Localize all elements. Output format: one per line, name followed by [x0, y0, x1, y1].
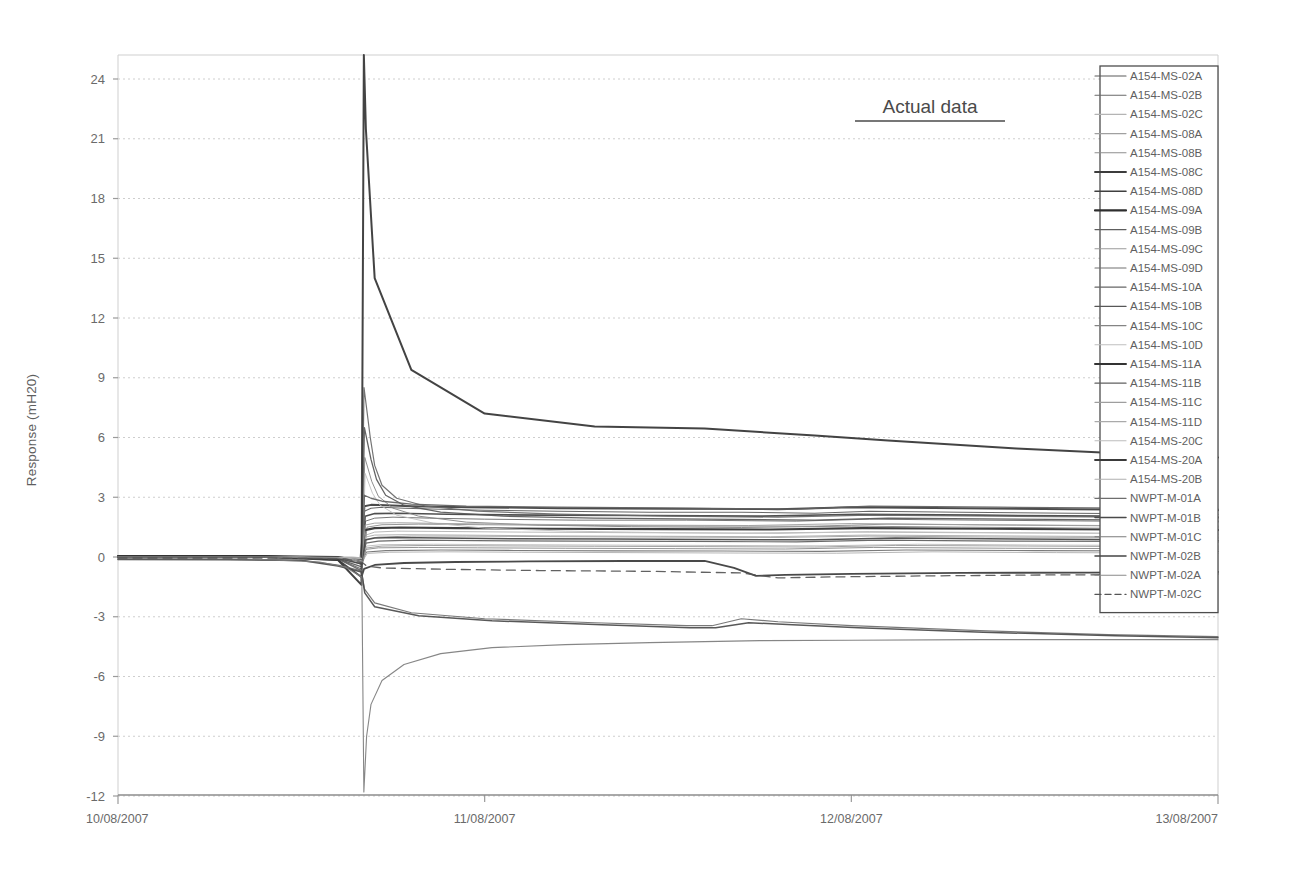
legend-item-label: NWPT-M-02B [1130, 550, 1201, 562]
y-tick-label: 0 [98, 550, 105, 565]
legend-item-label: A154-MS-08D [1130, 185, 1203, 197]
y-axis-title: Response (mH20) [24, 374, 39, 487]
y-tick-label: 21 [91, 131, 105, 146]
y-axis-title-text: Response (mH20) [24, 374, 39, 487]
legend-item-label: NWPT-M-01B [1130, 512, 1201, 524]
legend-item-label: A154-MS-10C [1130, 320, 1203, 332]
line-chart: 24211815129630-3-6-9-12 10/08/200711/08/… [0, 0, 1293, 875]
y-tick-label: 3 [98, 490, 105, 505]
x-tick-label: 12/08/2007 [820, 812, 883, 826]
legend-item-label: NWPT-M-02A [1130, 569, 1201, 581]
legend-item-label: A154-MS-20B [1130, 473, 1203, 485]
legend-item-label: A154-MS-08A [1130, 128, 1203, 140]
y-tick-label: 6 [98, 430, 105, 445]
legend-item-label: A154-MS-10B [1130, 300, 1203, 312]
y-tick-label: -6 [93, 669, 105, 684]
chart-figure: 24211815129630-3-6-9-12 10/08/200711/08/… [0, 0, 1293, 875]
y-tick-label: -12 [86, 789, 105, 804]
legend-item-label: A154-MS-08B [1130, 147, 1203, 159]
y-tick-label: -3 [93, 609, 105, 624]
legend-item-label: A154-MS-09C [1130, 243, 1203, 255]
y-tick-label: 18 [91, 191, 105, 206]
legend-item-label: A154-MS-09D [1130, 262, 1203, 274]
legend-item-label: A154-MS-11C [1130, 396, 1202, 408]
legend-item-label: A154-MS-20A [1130, 454, 1203, 466]
legend-item-label: NWPT-M-01C [1130, 531, 1202, 543]
legend-item-label: A154-MS-11B [1130, 377, 1202, 389]
legend-item-label: NWPT-M-02C [1130, 588, 1202, 600]
y-tick-label: 9 [98, 370, 105, 385]
legend-item-label: A154-MS-20C [1130, 435, 1203, 447]
legend-item-label: A154-MS-08C [1130, 166, 1203, 178]
legend-item-label: A154-MS-02A [1130, 70, 1203, 82]
legend-item-label: A154-MS-02C [1130, 108, 1203, 120]
legend-item-label: A154-MS-09B [1130, 224, 1203, 236]
legend-item-label: A154-MS-10A [1130, 281, 1203, 293]
y-tick-label: 24 [91, 72, 105, 87]
legend-item-label: A154-MS-02B [1130, 89, 1203, 101]
y-tick-label: 15 [91, 251, 105, 266]
legend-item-label: A154-MS-10D [1130, 339, 1203, 351]
legend[interactable]: A154-MS-02AA154-MS-02BA154-MS-02CA154-MS… [1095, 66, 1218, 613]
legend-item-label: A154-MS-11D [1130, 416, 1202, 428]
y-tick-label: -9 [93, 729, 105, 744]
legend-item-label: NWPT-M-01A [1130, 492, 1201, 504]
x-tick-label: 11/08/2007 [454, 812, 516, 826]
annotation-label: Actual data [882, 96, 977, 117]
legend-item-label: A154-MS-11A [1130, 358, 1202, 370]
y-tick-label: 12 [91, 311, 105, 326]
legend-item-label: A154-MS-09A [1130, 204, 1203, 216]
x-tick-label: 13/08/2007 [1155, 812, 1218, 826]
x-tick-label: 10/08/2007 [86, 812, 149, 826]
